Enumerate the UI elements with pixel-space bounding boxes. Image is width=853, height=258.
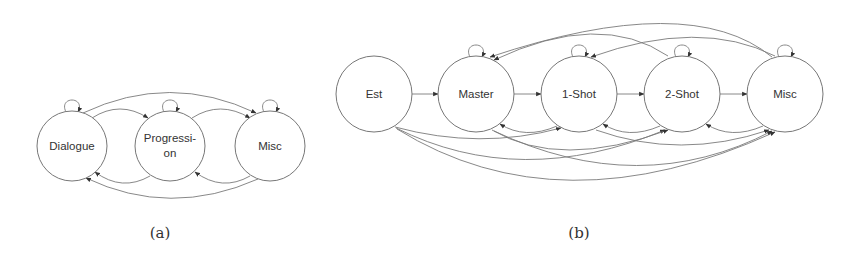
label-misc-b: Misc [773, 88, 797, 100]
state-transition-figure: Dialogue Progressi- on Misc (a) [0, 0, 853, 258]
edge-dialogue-self [65, 100, 80, 112]
caption-b: (b) [568, 224, 589, 242]
edge-progression-dialogue [95, 172, 150, 183]
label-progression-2: on [164, 147, 177, 159]
edge-misc-self-b [778, 45, 793, 57]
edge-est-misc [397, 129, 775, 180]
edge-master-self [469, 45, 484, 57]
label-master: Master [458, 88, 493, 100]
edge-2shot-self [675, 45, 690, 57]
label-dialogue: Dialogue [49, 140, 94, 152]
edge-2shot-1shot [603, 124, 660, 133]
edge-misc-self [263, 100, 278, 112]
diagram-b: Est Master 1-Shot 2-Shot Misc (b) [336, 24, 823, 243]
edge-master-misc [494, 131, 772, 166]
label-misc-a: Misc [258, 140, 282, 152]
edge-misc-2shot [706, 124, 763, 133]
diagram-a: Dialogue Progressi- on Misc (a) [37, 93, 305, 243]
edge-1shot-self [572, 45, 587, 57]
edge-progression-self [163, 100, 178, 112]
label-progression-1: Progressi- [144, 132, 197, 144]
edge-misc-progression [195, 172, 250, 183]
edge-progression-misc [192, 109, 250, 118]
edge-dialogue-progression [92, 109, 148, 118]
label-est: Est [366, 88, 383, 100]
edge-master-2shot [492, 130, 668, 150]
edge-misc-1shot [591, 37, 775, 57]
label-1shot: 1-Shot [562, 88, 597, 100]
label-2shot: 2-Shot [665, 88, 700, 100]
caption-a: (a) [150, 224, 171, 242]
node-progression [135, 111, 205, 181]
